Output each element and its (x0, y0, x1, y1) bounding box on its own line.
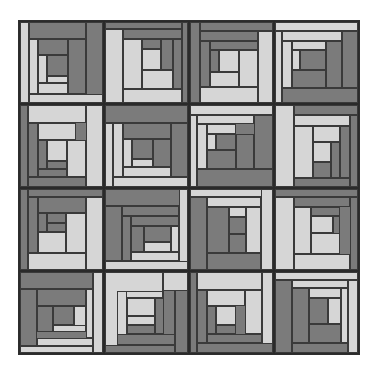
dark-log (105, 189, 188, 207)
quilt-block-r0-c2 (189, 21, 274, 104)
dark-log (105, 345, 175, 353)
light-log (86, 289, 93, 339)
light-log (142, 70, 173, 89)
light-log (105, 123, 113, 186)
light-log (20, 22, 29, 103)
light-log (38, 232, 66, 252)
light-log (311, 216, 333, 233)
light-log (197, 115, 253, 124)
light-log (246, 207, 261, 253)
light-log (197, 124, 207, 169)
dark-log (37, 306, 54, 332)
light-log (309, 288, 341, 298)
dark-log (210, 50, 219, 73)
light-log (210, 72, 239, 87)
light-log (207, 197, 260, 207)
dark-log (200, 41, 210, 87)
dark-log (86, 22, 103, 103)
dark-log (47, 161, 67, 169)
quilt-block-r2-c3 (274, 188, 359, 271)
light-log (313, 126, 340, 142)
dark-log (207, 207, 229, 253)
light-log (207, 124, 236, 134)
light-log (38, 83, 68, 94)
dark-log (313, 162, 331, 178)
light-log (37, 338, 93, 345)
dark-log (127, 325, 155, 333)
quilt-block-r3-c0 (19, 271, 104, 354)
dark-log (122, 216, 131, 261)
quilt-block-r1-c2 (189, 104, 274, 187)
quilt-block-r1-c1 (104, 104, 189, 187)
dark-log (144, 226, 171, 242)
dark-log (28, 123, 38, 177)
dark-log (105, 105, 188, 123)
light-log (190, 105, 273, 115)
light-log (275, 105, 294, 186)
light-log (282, 41, 291, 88)
dark-log (173, 39, 182, 89)
dark-log (123, 29, 182, 39)
light-log (163, 272, 188, 292)
dark-log (275, 189, 358, 198)
light-log (348, 280, 358, 353)
dark-log (38, 197, 85, 213)
light-log (262, 272, 273, 353)
light-log (179, 189, 188, 270)
dark-log (47, 55, 69, 76)
light-log (282, 31, 342, 41)
dark-log (190, 22, 200, 103)
dark-log (20, 189, 28, 270)
dark-log (47, 213, 66, 223)
dark-log (161, 39, 173, 70)
dark-log (207, 253, 260, 270)
light-log (275, 31, 282, 103)
light-log (229, 207, 246, 217)
dark-log (20, 289, 37, 346)
light-log (142, 49, 161, 70)
light-log (29, 39, 38, 93)
dark-log (117, 334, 174, 345)
light-log (239, 50, 258, 87)
dark-log (38, 140, 47, 168)
light-log (105, 261, 188, 270)
light-log (292, 280, 348, 288)
light-log (275, 22, 358, 31)
light-log (127, 298, 155, 316)
dark-log (275, 280, 292, 353)
quilt-block-r3-c3 (274, 271, 359, 354)
dark-log (190, 197, 207, 269)
dark-log (38, 213, 47, 233)
dark-log (292, 70, 327, 88)
light-log (86, 197, 103, 270)
light-log (20, 346, 93, 353)
quilt-block-r2-c0 (19, 188, 104, 271)
light-log (294, 254, 350, 270)
quilt-block-r1-c0 (19, 104, 104, 187)
light-log (105, 29, 123, 103)
light-log (66, 213, 85, 253)
dark-log (229, 234, 246, 253)
light-log (113, 123, 123, 177)
light-log (190, 115, 197, 187)
dark-log (105, 206, 122, 260)
quilt-block-r3-c2 (189, 271, 274, 354)
dark-log (236, 134, 253, 169)
light-log (261, 189, 273, 270)
light-log (47, 140, 67, 160)
light-log (123, 167, 171, 177)
light-log (313, 142, 331, 162)
light-log (28, 105, 85, 123)
dark-log (216, 134, 237, 150)
light-log (113, 177, 188, 187)
light-log (144, 242, 171, 252)
dark-log (300, 50, 327, 70)
light-log (219, 50, 239, 73)
light-log (123, 139, 132, 167)
quilt-block-r3-c1 (104, 271, 189, 354)
light-log (258, 31, 273, 103)
light-log (123, 39, 142, 89)
dark-log (28, 189, 103, 197)
light-log (38, 123, 75, 140)
light-log (294, 207, 311, 253)
